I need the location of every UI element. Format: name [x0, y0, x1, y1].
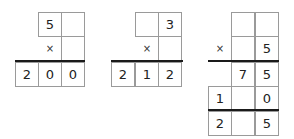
cell-r3-c2[interactable]: 7	[231, 62, 255, 87]
cell-r2-c3[interactable]	[61, 36, 85, 61]
cell-r5-c3[interactable]: 5	[255, 111, 279, 136]
cell-r1-c3[interactable]	[61, 12, 85, 37]
cell-r5-c1[interactable]: 2	[208, 111, 232, 136]
cell-r3-c3[interactable]: 0	[61, 62, 85, 87]
cell-r2-c2[interactable]	[231, 36, 255, 61]
cell-r1-c2[interactable]: 5	[38, 12, 62, 37]
cell-r1-c2[interactable]	[231, 12, 255, 37]
cell-r2-c3[interactable]	[158, 36, 182, 61]
cell-r1-c2[interactable]	[135, 12, 159, 37]
cell-r4-c3[interactable]: 0	[255, 86, 279, 111]
cell-r3-c3[interactable]: 5	[255, 62, 279, 87]
cell-r3-c1[interactable]: 2	[111, 62, 135, 87]
cell-r2-c3[interactable]: 5	[255, 36, 279, 61]
cell-r3-c2[interactable]: 0	[38, 62, 62, 87]
cell-r3-c3[interactable]: 2	[158, 62, 182, 87]
cell-r1-c3[interactable]	[255, 12, 279, 37]
cell-r4-c2[interactable]	[231, 86, 255, 111]
multiply-sign: ×	[208, 36, 232, 61]
cell-r1-c3[interactable]: 3	[158, 12, 182, 37]
cell-r3-c1[interactable]: 2	[15, 62, 39, 87]
multiply-sign: ×	[38, 36, 62, 61]
cell-r5-c2[interactable]	[231, 111, 255, 136]
multiply-sign: ×	[135, 36, 159, 61]
cell-r4-c1[interactable]: 1	[208, 86, 232, 111]
cell-r3-c2[interactable]: 1	[135, 62, 159, 87]
